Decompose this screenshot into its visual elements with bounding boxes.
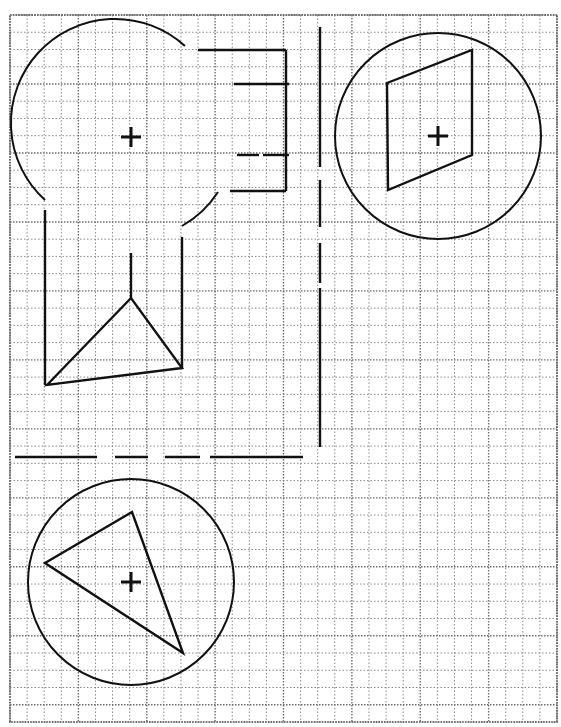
top-left-circle-arc-fragment bbox=[182, 192, 218, 226]
center-cross-icon bbox=[121, 572, 141, 592]
projected-triangle bbox=[47, 298, 182, 385]
side-view-bracket bbox=[198, 50, 289, 191]
figures bbox=[11, 19, 541, 685]
top-left-circle-arc bbox=[11, 19, 185, 200]
center-cross-icon bbox=[428, 126, 448, 146]
quadrilateral bbox=[387, 50, 472, 190]
bottom-triangle bbox=[45, 512, 183, 653]
center-cross-icon bbox=[121, 127, 141, 147]
grid-paper bbox=[10, 15, 557, 722]
center-marks bbox=[121, 126, 448, 592]
diagram-canvas bbox=[0, 0, 561, 727]
